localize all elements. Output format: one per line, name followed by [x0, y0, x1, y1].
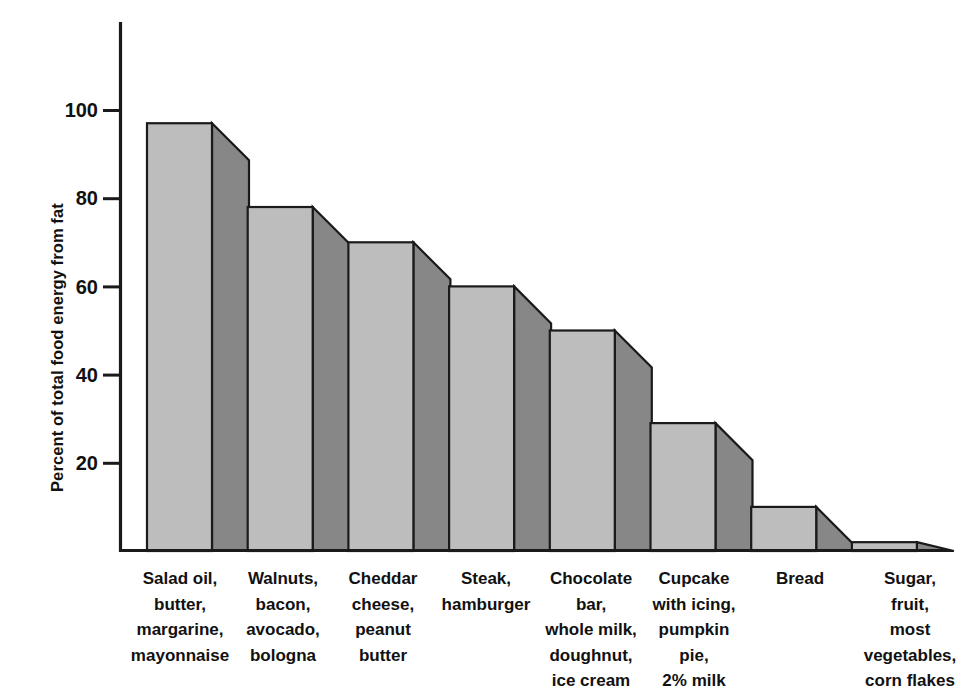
bar [550, 331, 652, 552]
x-category-label-7: Sugar, fruit, most vegetables, corn flak… [848, 566, 972, 694]
x-category-label-6: Bread [748, 566, 852, 592]
bar-front-face [248, 207, 313, 551]
bar [651, 423, 753, 551]
bar [348, 242, 450, 551]
bars-group [147, 123, 954, 551]
chart-figure: Percent of total food energy from fat 10… [0, 0, 979, 700]
bar-side-face [716, 423, 753, 551]
bar [449, 286, 551, 551]
bar-side-face [313, 207, 350, 551]
x-category-label-1: Walnuts, bacon, avocado, bologna [231, 566, 335, 668]
x-category-label-2: Cheddar cheese, peanut butter [333, 566, 433, 668]
x-category-label-3: Steak, hamburger [430, 566, 542, 617]
bar-front-face [147, 123, 212, 551]
bar-front-face [449, 286, 514, 551]
bar-front-face [751, 507, 816, 551]
bar-side-face [212, 123, 249, 551]
bar-side-face [615, 331, 652, 552]
bar [751, 507, 853, 551]
bar-front-face [348, 242, 413, 551]
bar-front-face [550, 331, 615, 552]
x-category-label-0: Salad oil, butter, margarine, mayonnaise [124, 566, 236, 668]
bar-side-face [816, 507, 853, 551]
x-category-label-5: Cupcake with icing, pumpkin pie, 2% milk [640, 566, 748, 694]
bar-side-face [514, 286, 551, 551]
x-category-label-4: Chocolate bar, whole milk, doughnut, ice… [535, 566, 647, 694]
bar-front-face [651, 423, 716, 551]
bar-side-face [413, 242, 450, 551]
bar [147, 123, 249, 551]
bar [248, 207, 350, 551]
